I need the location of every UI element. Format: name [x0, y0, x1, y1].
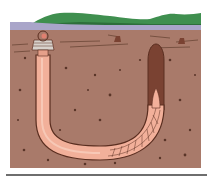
- divider-line: [6, 174, 207, 176]
- lugworm-burrow-illustration: [0, 0, 215, 179]
